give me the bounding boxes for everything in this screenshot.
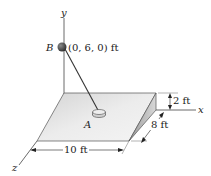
y-axis-label: y — [60, 7, 67, 18]
sphere-B — [58, 43, 67, 52]
z-axis-label: z — [11, 162, 18, 173]
dim-8ft-arrow-bottom — [141, 137, 146, 143]
point-B-label: B — [45, 42, 53, 53]
dim-2ft-arrow-up — [168, 93, 172, 98]
point-B-coordinates: (0, 6, 0) ft — [68, 42, 119, 53]
x-axis-label: x — [198, 104, 204, 115]
dim-10ft-arrow-right — [118, 148, 124, 152]
z-axis — [19, 141, 37, 165]
diagram-canvas: y x z B (0, 6, 0) ft A 2 ft 8 ft 10 ft — [0, 0, 211, 176]
dim-10ft-label: 10 ft — [64, 144, 88, 155]
dim-8ft-label: 8 ft — [151, 119, 168, 130]
disk-A-top — [93, 110, 106, 115]
dim-8ft-arrow-top — [159, 112, 164, 118]
point-A-label: A — [83, 119, 91, 130]
dim-2ft-label: 2 ft — [173, 95, 190, 106]
dim-2ft-arrow-down — [168, 105, 172, 110]
dim-10ft-ext-right — [122, 141, 129, 154]
